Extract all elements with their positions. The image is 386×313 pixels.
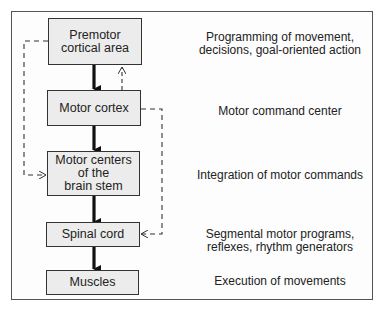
description-motor-cortex: Motor command center [190, 105, 370, 118]
box-motor-cortex: Motor cortex [47, 90, 141, 126]
description-spinal-cord: Segmental motor programs, reflexes, rhyt… [190, 228, 370, 254]
box-premotor-cortical-area: Premotor cortical area [48, 18, 142, 65]
box-motor-centers-brain-stem: Motor centers of the brain stem [47, 151, 140, 196]
box-spinal-cord: Spinal cord [46, 222, 140, 247]
box-muscles: Muscles [46, 270, 139, 295]
description-premotor: Programming of movement, decisions, goal… [190, 31, 370, 57]
description-brain-stem: Integration of motor commands [185, 169, 375, 182]
dashed-arrow-motor-to-spinal [141, 109, 162, 234]
dashed-arrow-premotor-to-brainstem [24, 41, 48, 175]
description-muscles: Execution of movements [190, 275, 370, 288]
